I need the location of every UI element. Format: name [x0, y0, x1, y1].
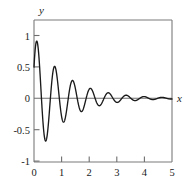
- y-tick-label-1: 1: [25, 31, 30, 42]
- damped-oscillation-figure: y x 1 0.5 0 -0.5 -1 0 1: [0, 0, 190, 185]
- chart-svg: y x 1 0.5 0 -0.5 -1 0 1: [0, 0, 190, 185]
- y-tick-label-0_5: 0.5: [17, 62, 30, 73]
- x-axis-label: x: [176, 92, 182, 104]
- y-tick-label-neg0_5: -0.5: [13, 125, 30, 136]
- y-tick-label-0: 0: [25, 93, 30, 104]
- x-tick-label-3: 3: [114, 167, 119, 178]
- x-tick-label-2: 2: [87, 167, 92, 178]
- x-tick-label-4: 4: [142, 167, 148, 178]
- x-tick-label-0: 0: [31, 167, 36, 178]
- x-tick-label-1: 1: [59, 167, 64, 178]
- x-tick-label-5: 5: [169, 167, 174, 178]
- y-axis-label: y: [38, 4, 44, 16]
- y-tick-label-neg1: -1: [21, 156, 30, 167]
